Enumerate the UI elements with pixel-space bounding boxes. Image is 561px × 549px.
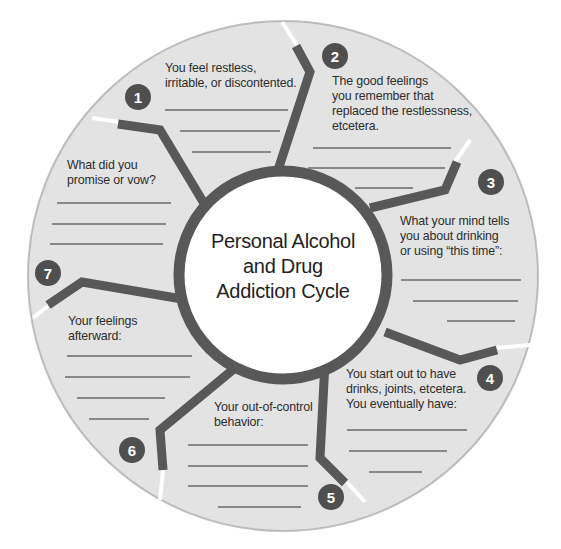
badge-6: 6 (119, 437, 145, 463)
badge-4: 4 (477, 365, 503, 391)
badge-7: 7 (35, 260, 61, 286)
prompt-6: Your feelings afterward: (68, 314, 137, 344)
svg-text:2: 2 (331, 48, 339, 65)
prompt-7: What did you promise or vow? (67, 158, 156, 188)
badge-2: 2 (322, 43, 348, 69)
prompt-4: You start out to have drinks, joints, et… (346, 367, 466, 412)
svg-text:4: 4 (486, 370, 495, 387)
prompt-2: The good feelings you remember that repl… (332, 74, 472, 134)
svg-text:7: 7 (44, 265, 52, 282)
svg-text:5: 5 (327, 489, 335, 506)
prompt-5: Your out-of-control behavior: (214, 400, 313, 430)
cycle-title: Personal Alcohol and Drug Addiction Cycl… (183, 229, 383, 304)
badge-3: 3 (478, 169, 504, 195)
svg-text:6: 6 (128, 442, 136, 459)
badge-1: 1 (125, 84, 151, 110)
prompt-1: You feel restless, irritable, or discont… (165, 61, 297, 91)
svg-text:3: 3 (487, 174, 495, 191)
badge-5: 5 (318, 484, 344, 510)
svg-text:1: 1 (134, 89, 142, 106)
prompt-3: What your mind tells you about drinking … (400, 214, 509, 259)
